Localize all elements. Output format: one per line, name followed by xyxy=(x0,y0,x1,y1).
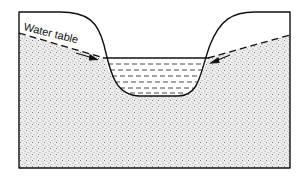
diagram-canvas: Water table xyxy=(0,0,302,181)
sediment-fill xyxy=(19,33,290,168)
gaining-stream-diagram: Water table xyxy=(0,0,302,181)
stream-water xyxy=(108,64,204,93)
